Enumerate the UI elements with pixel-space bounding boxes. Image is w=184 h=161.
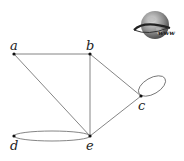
graph-diagram: www xyxy=(0,0,184,161)
node-label-a: a xyxy=(10,39,18,52)
node-label-c: c xyxy=(138,99,145,112)
edge-d-e-multi xyxy=(14,131,90,141)
edge-c-e xyxy=(90,96,141,136)
edge-b-c xyxy=(90,54,141,96)
node-label-d: d xyxy=(10,139,18,152)
node-label-e: e xyxy=(86,139,94,152)
edge-a-e xyxy=(14,54,90,136)
node-label-b: b xyxy=(86,39,94,52)
svg-text:www: www xyxy=(158,29,175,37)
globe-icon: www xyxy=(134,11,175,39)
